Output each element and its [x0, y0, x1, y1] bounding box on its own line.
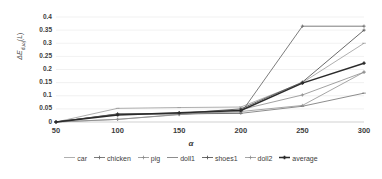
data-point-marker [362, 25, 365, 28]
y-axis-tick-label: 0.05 [28, 105, 52, 112]
legend-marker-icon [245, 154, 256, 162]
x-axis-title: α [0, 139, 382, 148]
y-axis-tick-label: 0.15 [28, 79, 52, 86]
legend-item-doll2[interactable]: doll2 [245, 154, 273, 162]
legend-item-shoes1[interactable]: shoes1 [202, 154, 238, 162]
series-shoes1 [54, 29, 365, 124]
x-axis-tick-label: 300 [358, 126, 371, 135]
legend-item-doll1[interactable]: doll1 [167, 154, 195, 162]
data-point-marker [362, 71, 365, 74]
legend-label: car [77, 155, 87, 162]
y-axis-tick-label: 0 [28, 119, 52, 126]
legend-marker-icon [138, 154, 149, 162]
series-line [56, 72, 364, 122]
x-axis-tick-label: 250 [296, 126, 309, 135]
legend-item-chicken[interactable]: chicken [94, 154, 131, 162]
y-axis-tick-label: 0.2 [28, 66, 52, 73]
y-axis-tick-label: 0.3 [28, 40, 52, 47]
series-line [56, 30, 364, 122]
legend-label: pig [151, 155, 160, 162]
legend-item-pig[interactable]: pig [138, 154, 160, 162]
legend-label: average [292, 155, 317, 162]
legend-marker-icon [279, 154, 290, 162]
legend-item-car[interactable]: car [64, 154, 87, 162]
line-chart: ΔEd,ωj(L) 00.050.10.150.20.250.30.350.4 … [0, 0, 382, 179]
y-axis-tick-labels: 00.050.10.150.20.250.30.350.4 [26, 0, 52, 179]
data-point-marker [301, 93, 304, 96]
chart-legend: carchickenpigdoll1shoes1doll2average [0, 154, 382, 162]
legend-marker-icon [94, 154, 105, 162]
y-axis-tick-label: 0.1 [28, 92, 52, 99]
data-point-marker [54, 120, 57, 123]
x-axis-tick-label: 100 [111, 126, 124, 135]
legend-label: chicken [107, 155, 131, 162]
plot-svg [56, 17, 364, 122]
plot-area [56, 17, 364, 122]
y-axis-tick-label: 0.35 [28, 27, 52, 34]
legend-marker-icon [64, 154, 75, 162]
legend-marker-icon [202, 154, 213, 162]
y-axis-tick-label: 0.4 [28, 14, 52, 21]
series-average [54, 62, 365, 124]
y-axis-tick-label: 0.25 [28, 53, 52, 60]
legend-label: doll2 [258, 155, 273, 162]
y-axis-title: ΔEd,ωj(L) [16, 46, 25, 60]
legend-label: doll1 [180, 155, 195, 162]
x-axis-tick-label: 50 [52, 126, 60, 135]
x-axis-tick-label: 200 [235, 126, 248, 135]
data-point-marker [116, 118, 119, 121]
x-axis-tick-label: 150 [173, 126, 186, 135]
legend-label: shoes1 [215, 155, 238, 162]
legend-item-average[interactable]: average [279, 154, 317, 162]
legend-marker-icon [167, 154, 178, 162]
